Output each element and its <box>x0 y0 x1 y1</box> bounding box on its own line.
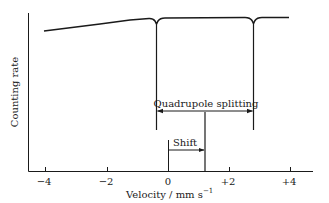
tick-label-minus-2: −2 <box>99 176 114 187</box>
axes <box>29 13 314 172</box>
quadrupole-splitting-label: Quadrupole splitting <box>154 98 260 109</box>
x-axis-label: Velocity / mm s−1 <box>125 187 213 200</box>
spectrum-curve <box>44 18 289 32</box>
tick-label-0: 0 <box>165 176 171 187</box>
tick-label-plus-4: +4 <box>282 176 297 187</box>
y-axis-label: Counting rate <box>9 57 20 128</box>
mossbauer-spectrum-chart: −4 −2 0 +2 +4 Velocity / mm s−1 Counting… <box>0 0 329 203</box>
tick-label-plus-2: +2 <box>221 176 236 187</box>
x-axis-label-sup: −1 <box>203 187 213 195</box>
tick-label-minus-4: −4 <box>37 176 52 187</box>
x-tick-labels: −4 −2 0 +2 +4 <box>37 176 297 187</box>
shift-label: Shift <box>173 137 197 148</box>
x-axis-label-main: Velocity / mm s <box>125 189 203 200</box>
